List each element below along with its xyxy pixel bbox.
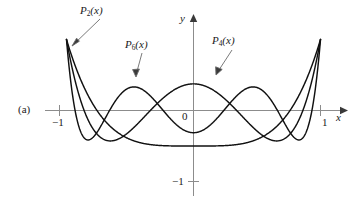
- panel-label: (a): [18, 104, 30, 115]
- x-axis-label: x: [336, 112, 341, 123]
- x-tick-label-neg1: −1: [52, 117, 64, 128]
- curve-label-p4: P4(x): [212, 35, 235, 48]
- annotation-leaders-group: [72, 19, 232, 77]
- curve-label-p6: P6(x): [125, 39, 148, 52]
- x-axis-arrowhead: [340, 107, 348, 114]
- y-tick-label-neg1: −1: [172, 176, 184, 187]
- leader-arrow-p2: [72, 38, 79, 46]
- axes-group: [45, 14, 348, 196]
- legendre-polynomials-figure: (a) P2(x) P6(x) P4(x) y x −1 1 0 −1: [0, 0, 357, 206]
- curve-label-p2: P2(x): [80, 5, 103, 18]
- x-tick-label-pos1: 1: [322, 117, 328, 128]
- leader-arrow-p6: [133, 69, 140, 77]
- origin-label: 0: [182, 111, 188, 122]
- y-axis-label: y: [180, 13, 185, 24]
- leader-arrow-p4: [216, 67, 223, 75]
- y-axis-arrowhead: [190, 14, 197, 22]
